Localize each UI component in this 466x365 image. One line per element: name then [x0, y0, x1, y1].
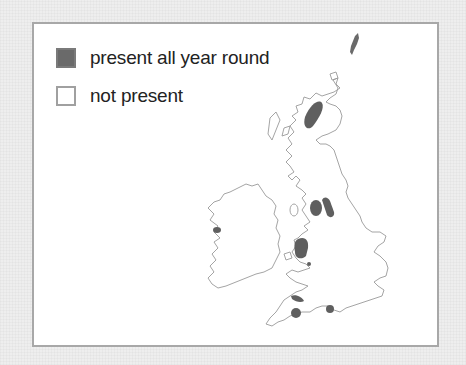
- presence-areas: [213, 102, 334, 318]
- presence-area-shropshire: [307, 262, 311, 266]
- anglesey-outline: [284, 252, 292, 260]
- presence-area-highlands: [304, 102, 323, 129]
- orkney-outline: [330, 72, 338, 80]
- skye-outline: [282, 126, 290, 136]
- presence-area-lake-district: [310, 200, 322, 216]
- isle-of-man-outline: [290, 204, 298, 216]
- presence-area-pennines: [322, 197, 334, 217]
- presence-area-connemara: [213, 227, 221, 233]
- shetland-icon: [350, 33, 359, 55]
- hebrides-outline: [268, 112, 280, 140]
- distribution-map: [0, 0, 466, 365]
- ireland-outline: [208, 184, 280, 288]
- presence-area-south-wales: [291, 295, 304, 302]
- presence-area-dartmoor: [291, 308, 301, 318]
- presence-area-snowdonia: [294, 238, 308, 258]
- presence-area-new-forest: [326, 305, 334, 313]
